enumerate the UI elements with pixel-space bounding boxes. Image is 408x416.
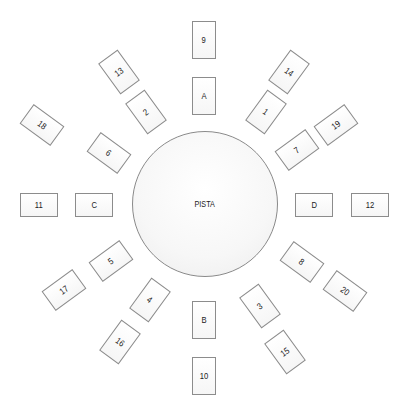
table-19: 19 — [314, 104, 359, 146]
table-C: C — [75, 193, 113, 217]
table-label: 18 — [36, 118, 49, 131]
table-10: 10 — [192, 357, 216, 395]
table-label: 16 — [114, 335, 127, 348]
table-label: 15 — [279, 345, 292, 358]
table-label: 14 — [283, 65, 296, 78]
table-label: C — [91, 200, 97, 210]
table-1: 1 — [245, 90, 287, 135]
table-16: 16 — [99, 320, 141, 365]
table-13: 13 — [98, 50, 140, 95]
table-label: 10 — [200, 371, 209, 381]
table-label: 19 — [330, 118, 343, 131]
table-label: 6 — [104, 148, 113, 159]
table-9: 9 — [192, 21, 216, 59]
table-11: 11 — [20, 193, 58, 217]
table-label: 2 — [141, 107, 150, 118]
table-14: 14 — [268, 50, 310, 95]
table-label: 7 — [292, 145, 301, 156]
table-label: D — [311, 200, 317, 210]
table-label: 20 — [339, 284, 352, 297]
dance-floor: PISTA — [132, 131, 278, 277]
seating-diagram: PISTA 9A13214118619711CD12517820416B1031… — [0, 0, 408, 416]
table-3: 3 — [239, 284, 281, 329]
table-17: 17 — [42, 269, 87, 311]
table-A: A — [192, 77, 216, 115]
table-5: 5 — [89, 240, 134, 282]
table-15: 15 — [264, 330, 306, 375]
table-label: 8 — [297, 257, 306, 268]
table-18: 18 — [20, 104, 65, 146]
table-4: 4 — [129, 278, 171, 323]
table-label: B — [201, 315, 206, 325]
table-7: 7 — [275, 129, 320, 171]
table-label: 1 — [261, 107, 270, 118]
table-B: B — [192, 301, 216, 339]
table-label: 11 — [35, 200, 43, 210]
table-12: 12 — [351, 193, 389, 217]
table-label: 13 — [113, 65, 126, 78]
table-label: 9 — [202, 35, 206, 45]
table-D: D — [295, 193, 333, 217]
table-8: 8 — [280, 241, 325, 283]
table-6: 6 — [87, 132, 132, 174]
table-label: A — [201, 91, 206, 101]
table-label: 12 — [366, 200, 375, 210]
table-label: 3 — [255, 301, 264, 312]
table-2: 2 — [125, 90, 167, 135]
table-label: 4 — [145, 295, 154, 306]
dance-floor-label: PISTA — [195, 199, 215, 209]
table-label: 17 — [58, 283, 71, 296]
table-20: 20 — [323, 270, 368, 312]
table-label: 5 — [106, 256, 115, 267]
